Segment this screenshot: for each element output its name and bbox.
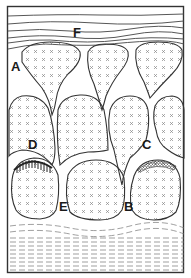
label-b: B: [124, 200, 133, 213]
label-a: A: [11, 60, 20, 73]
label-c: C: [142, 138, 151, 151]
lower-pillows: [12, 158, 181, 220]
label-f: F: [73, 26, 81, 39]
label-d: D: [28, 138, 37, 151]
label-e: E: [59, 200, 68, 213]
